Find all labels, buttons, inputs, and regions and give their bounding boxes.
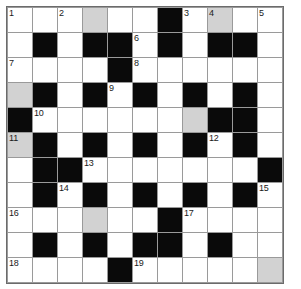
crossword-cell-open[interactable]	[183, 33, 208, 58]
crossword-clue-number: 6	[134, 33, 139, 43]
crossword-cell-open[interactable]	[208, 183, 233, 208]
crossword-cell-open[interactable]: 12	[208, 133, 233, 158]
crossword-cell-open[interactable]: 9	[108, 83, 133, 108]
crossword-cell-open[interactable]	[8, 158, 33, 183]
crossword-clue-number: 3	[184, 8, 189, 18]
crossword-clue-number: 17	[184, 208, 194, 218]
crossword-cell-open[interactable]	[133, 8, 158, 33]
crossword-cell-open[interactable]	[108, 158, 133, 183]
crossword-cell-open[interactable]	[108, 8, 133, 33]
crossword-cell-block	[158, 33, 183, 58]
crossword-cell-open[interactable]: 6	[133, 33, 158, 58]
crossword-cell-open[interactable]	[33, 258, 58, 283]
crossword-cell-open[interactable]	[258, 33, 283, 58]
crossword-cell-highlighted[interactable]	[83, 208, 108, 233]
crossword-cell-open[interactable]	[183, 58, 208, 83]
crossword-cell-open[interactable]: 15	[258, 183, 283, 208]
crossword-cell-open[interactable]	[58, 58, 83, 83]
crossword-cell-open[interactable]	[133, 208, 158, 233]
crossword-cell-open[interactable]: 3	[183, 8, 208, 33]
crossword-cell-open[interactable]: 8	[133, 58, 158, 83]
crossword-clue-number: 15	[259, 183, 269, 193]
crossword-cell-open[interactable]: 17	[183, 208, 208, 233]
crossword-cell-open[interactable]	[233, 208, 258, 233]
crossword-cell-highlighted[interactable]: 11	[8, 133, 33, 158]
crossword-cell-highlighted[interactable]	[183, 108, 208, 133]
crossword-cell-open[interactable]: 5	[258, 8, 283, 33]
crossword-cell-open[interactable]	[108, 233, 133, 258]
crossword-cell-open[interactable]: 14	[58, 183, 83, 208]
crossword-cell-open[interactable]: 13	[83, 158, 108, 183]
crossword-cell-open[interactable]: 2	[58, 8, 83, 33]
crossword-cell-open[interactable]	[208, 208, 233, 233]
crossword-cell-open[interactable]	[33, 208, 58, 233]
crossword-cell-highlighted[interactable]	[258, 258, 283, 283]
crossword-cell-open[interactable]	[258, 233, 283, 258]
crossword-cell-open[interactable]	[233, 233, 258, 258]
crossword-cell-open[interactable]	[208, 258, 233, 283]
crossword-cell-open[interactable]	[158, 258, 183, 283]
crossword-cell-open[interactable]	[158, 158, 183, 183]
crossword-cell-open[interactable]	[8, 33, 33, 58]
crossword-cell-open[interactable]	[208, 83, 233, 108]
crossword-cell-block	[33, 233, 58, 258]
crossword-cell-open[interactable]	[258, 133, 283, 158]
crossword-cell-open[interactable]	[133, 158, 158, 183]
crossword-cell-open[interactable]	[258, 58, 283, 83]
crossword-cell-block	[33, 133, 58, 158]
crossword-cell-open[interactable]	[233, 158, 258, 183]
crossword-cell-open[interactable]	[58, 208, 83, 233]
crossword-cell-highlighted[interactable]: 4	[208, 8, 233, 33]
crossword-row: 78	[8, 58, 283, 83]
crossword-clue-number: 14	[59, 183, 69, 193]
crossword-cell-open[interactable]	[108, 208, 133, 233]
crossword-cell-open[interactable]	[258, 208, 283, 233]
crossword-cell-open[interactable]	[58, 233, 83, 258]
crossword-cell-open[interactable]	[83, 58, 108, 83]
crossword-cell-open[interactable]	[83, 258, 108, 283]
crossword-cell-open[interactable]	[233, 258, 258, 283]
crossword-row	[8, 233, 283, 258]
crossword-grid[interactable]: 12345678910111213141516171819	[7, 7, 283, 283]
crossword-cell-open[interactable]	[183, 233, 208, 258]
crossword-cell-open[interactable]: 16	[8, 208, 33, 233]
crossword-cell-open[interactable]	[133, 108, 158, 133]
crossword-cell-open[interactable]: 18	[8, 258, 33, 283]
crossword-cell-open[interactable]: 1	[8, 8, 33, 33]
crossword-cell-open[interactable]	[208, 158, 233, 183]
crossword-cell-highlighted[interactable]	[8, 83, 33, 108]
crossword-cell-open[interactable]	[183, 258, 208, 283]
crossword-cell-open[interactable]	[233, 8, 258, 33]
crossword-cell-block	[133, 233, 158, 258]
crossword-cell-open[interactable]	[58, 258, 83, 283]
crossword-cell-open[interactable]	[108, 108, 133, 133]
crossword-cell-open[interactable]	[33, 8, 58, 33]
crossword-cell-open[interactable]: 7	[8, 58, 33, 83]
crossword-cell-open[interactable]	[108, 133, 133, 158]
crossword-cell-open[interactable]: 19	[133, 258, 158, 283]
crossword-cell-open[interactable]: 10	[33, 108, 58, 133]
crossword-cell-open[interactable]	[233, 58, 258, 83]
crossword-cell-open[interactable]	[258, 108, 283, 133]
crossword-cell-open[interactable]	[183, 158, 208, 183]
crossword-cell-open[interactable]	[58, 83, 83, 108]
crossword-clue-number: 10	[34, 108, 44, 118]
crossword-cell-open[interactable]	[258, 83, 283, 108]
crossword-cell-open[interactable]	[208, 58, 233, 83]
crossword-cell-open[interactable]	[8, 233, 33, 258]
crossword-cell-open[interactable]	[33, 58, 58, 83]
crossword-cell-block	[158, 208, 183, 233]
crossword-cell-open[interactable]	[8, 183, 33, 208]
crossword-cell-open[interactable]	[58, 133, 83, 158]
crossword-cell-highlighted[interactable]	[83, 8, 108, 33]
crossword-row: 1415	[8, 183, 283, 208]
crossword-cell-open[interactable]	[58, 33, 83, 58]
crossword-cell-open[interactable]	[83, 108, 108, 133]
crossword-cell-open[interactable]	[158, 108, 183, 133]
crossword-cell-open[interactable]	[58, 108, 83, 133]
crossword-cell-open[interactable]	[158, 183, 183, 208]
crossword-cell-open[interactable]	[158, 58, 183, 83]
crossword-cell-open[interactable]	[108, 183, 133, 208]
crossword-cell-open[interactable]	[158, 83, 183, 108]
crossword-cell-open[interactable]	[158, 133, 183, 158]
